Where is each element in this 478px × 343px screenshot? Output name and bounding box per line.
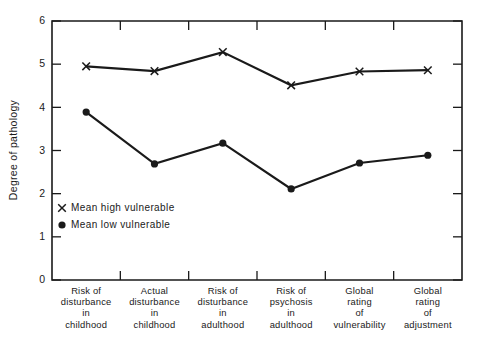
- x-category-line: adulthood: [189, 319, 257, 330]
- series-1: [82, 48, 431, 89]
- x-category-line: Global: [394, 285, 462, 296]
- y-tick-label-5: 5: [39, 57, 45, 69]
- x-category-label-1: Risk ofdisturbanceinchildhood: [52, 285, 120, 330]
- chart-legend: Mean high vulnerableMean low vulnerable: [58, 202, 174, 230]
- data-point-s2-p5: [356, 159, 363, 166]
- series-line-1: [86, 52, 428, 85]
- data-series-layer: [82, 48, 431, 192]
- chart-figure: 0123456 Degree of pathology Mean high vu…: [0, 0, 478, 343]
- plot-frame: [52, 21, 462, 280]
- y-tick-label-0: 0: [39, 273, 45, 285]
- x-category-label-6: Globalratingofadjustment: [394, 285, 462, 330]
- legend-marker-1: [58, 204, 66, 212]
- x-axis-tick-marks: [120, 21, 393, 280]
- x-category-line: Risk of: [257, 285, 325, 296]
- x-category-line: Actual: [120, 285, 188, 296]
- x-category-label-5: Globalratingofvulnerability: [325, 285, 393, 330]
- legend-label-2: Mean low vulnerable: [71, 219, 170, 230]
- data-point-s2-p4: [288, 185, 295, 192]
- x-category-line: psychosis: [257, 296, 325, 307]
- x-category-line: in: [52, 307, 120, 318]
- y-tick-label-6: 6: [39, 14, 45, 26]
- y-axis-tick-marks: [52, 21, 462, 280]
- x-category-line: disturbance: [189, 296, 257, 307]
- x-category-line: Risk of: [52, 285, 120, 296]
- data-point-s2-p6: [424, 152, 431, 159]
- x-category-line: rating: [325, 296, 393, 307]
- y-axis-tick-labels: 0123456: [39, 14, 45, 285]
- x-category-line: disturbance: [52, 296, 120, 307]
- y-tick-label-4: 4: [39, 101, 45, 113]
- x-category-line: rating: [394, 296, 462, 307]
- x-category-line: adulthood: [257, 319, 325, 330]
- data-point-s2-p2: [151, 160, 158, 167]
- x-category-label-2: Actualdisturbanceinchildhood: [120, 285, 188, 330]
- y-tick-label-3: 3: [39, 144, 45, 156]
- x-category-line: childhood: [52, 319, 120, 330]
- legend-marker-2: [58, 221, 65, 228]
- x-category-line: in: [257, 307, 325, 318]
- x-category-line: in: [120, 307, 188, 318]
- x-category-line: vulnerability: [325, 319, 393, 330]
- x-category-line: of: [394, 307, 462, 318]
- y-tick-label-1: 1: [39, 230, 45, 242]
- series-line-2: [86, 112, 428, 189]
- x-category-line: childhood: [120, 319, 188, 330]
- series-2: [83, 108, 432, 192]
- x-category-label-3: Risk ofdisturbanceinadulthood: [189, 285, 257, 330]
- x-category-line: Global: [325, 285, 393, 296]
- x-category-line: disturbance: [120, 296, 188, 307]
- x-category-line: adjustment: [394, 319, 462, 330]
- y-tick-label-2: 2: [39, 187, 45, 199]
- x-category-line: of: [325, 307, 393, 318]
- legend-label-1: Mean high vulnerable: [71, 202, 175, 213]
- x-category-line: in: [189, 307, 257, 318]
- x-category-line: Risk of: [189, 285, 257, 296]
- x-category-label-4: Risk ofpsychosisinadulthood: [257, 285, 325, 330]
- data-point-s2-p3: [219, 140, 226, 147]
- y-axis-title: Degree of pathology: [7, 99, 19, 200]
- data-point-s2-p1: [83, 108, 90, 115]
